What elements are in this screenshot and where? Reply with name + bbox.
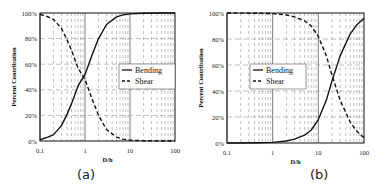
y-tick-label: 60% bbox=[25, 61, 38, 68]
x-tick-label: 10 bbox=[127, 147, 134, 154]
x-tick-label: 100 bbox=[170, 147, 180, 154]
x-tick-label: 0.1 bbox=[36, 147, 44, 154]
panel-caption-b: (b) bbox=[310, 167, 328, 182]
chart-a-plot: 0%20%40%60%80%100%0.1110100D/hPercent Co… bbox=[0, 0, 190, 193]
chart-panel-a: 0%20%40%60%80%100%0.1110100D/hPercent Co… bbox=[0, 0, 190, 193]
y-tick-label: 20% bbox=[25, 112, 38, 119]
y-tick-label: 0% bbox=[28, 138, 37, 145]
chart-b-plot: 0%20%40%60%80%100%0.1110100D/hPercent Co… bbox=[190, 0, 381, 193]
legend-label-bending: Bending bbox=[266, 66, 293, 75]
x-axis-label: D/h bbox=[290, 158, 301, 165]
x-tick-label: 10 bbox=[315, 149, 322, 156]
x-tick-label: 100 bbox=[359, 149, 369, 156]
x-tick-label: 0.1 bbox=[223, 149, 231, 156]
y-tick-label: 100% bbox=[22, 10, 38, 17]
legend-label-shear: Shear bbox=[135, 77, 154, 86]
y-tick-label: 40% bbox=[25, 86, 38, 93]
y-tick-label: 80% bbox=[25, 35, 38, 42]
chart-panel-b: 0%20%40%60%80%100%0.1110100D/hPercent Co… bbox=[190, 0, 380, 193]
y-tick-label: 100% bbox=[209, 10, 225, 17]
x-axis-label: D/h bbox=[102, 156, 113, 163]
y-axis-label: Percent Contribution bbox=[197, 48, 204, 108]
y-tick-label: 40% bbox=[212, 88, 225, 95]
panel-caption-a: (a) bbox=[77, 167, 95, 182]
legend-label-bending: Bending bbox=[135, 66, 162, 75]
legend: BendingShear bbox=[119, 64, 175, 89]
y-tick-label: 0% bbox=[215, 140, 224, 147]
legend: BendingShear bbox=[250, 64, 306, 89]
x-tick-label: 1 bbox=[271, 149, 274, 156]
y-axis-label: Percent Contribution bbox=[10, 47, 17, 107]
y-tick-label: 80% bbox=[212, 36, 225, 43]
y-tick-label: 20% bbox=[212, 114, 225, 121]
x-tick-label: 1 bbox=[83, 147, 86, 154]
y-tick-label: 60% bbox=[212, 62, 225, 69]
legend-label-shear: Shear bbox=[266, 77, 285, 86]
